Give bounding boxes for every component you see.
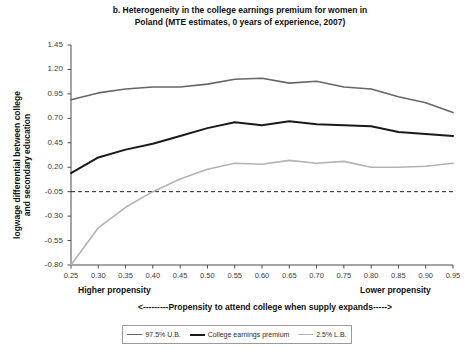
x-axis-tick-label: 0.50 [192, 271, 222, 280]
series-line-2-5-l-b [71, 160, 453, 265]
x-axis-tick-label: 0.75 [329, 271, 359, 280]
y-axis-tick-label: 1.45 [33, 40, 63, 49]
legend-label: 97.5% U.B. [145, 331, 180, 338]
legend-item: College earnings premium [190, 331, 290, 338]
x-axis-tick-label: 0.25 [56, 271, 86, 280]
legend-label: 2.5% L.B. [316, 331, 346, 338]
chart-legend: 97.5% U.B.College earnings premium2.5% L… [122, 325, 352, 344]
y-axis-tick-label: 1.20 [33, 64, 63, 73]
y-axis-tick-label: -0.80 [33, 260, 63, 269]
y-axis-tick-label: -0.30 [33, 211, 63, 220]
legend-swatch-line-icon [127, 334, 142, 335]
y-axis-tick-label: -0.55 [33, 236, 63, 245]
x-axis-tick-label: 0.45 [165, 271, 195, 280]
y-axis-tick-label: 0.70 [33, 113, 63, 122]
x-axis-tick-label: 0.85 [383, 271, 413, 280]
x-axis-tick-label: 0.30 [83, 271, 113, 280]
plot-area [0, 0, 471, 350]
legend-item: 2.5% L.B. [298, 331, 346, 338]
series-line-97-5-u-b [71, 78, 453, 112]
x-axis-label: <---------Propensity to attend college w… [70, 302, 460, 312]
y-axis-tick-label: 0.20 [33, 162, 63, 171]
x-axis-tick-label: 0.80 [356, 271, 386, 280]
x-axis-tick-label: 0.35 [111, 271, 141, 280]
legend-label: College earnings premium [208, 331, 290, 338]
series-line-college-earnings-premium [71, 121, 453, 173]
higher-propensity-note: Higher propensity [78, 285, 151, 295]
y-axis-tick-label: -0.05 [33, 187, 63, 196]
x-axis-tick-label: 0.95 [438, 271, 468, 280]
legend-swatch-line-icon [190, 334, 205, 336]
y-axis-tick-label: 0.95 [33, 89, 63, 98]
x-axis-tick-label: 0.70 [302, 271, 332, 280]
x-axis-tick-label: 0.60 [247, 271, 277, 280]
legend-swatch-line-icon [298, 334, 313, 335]
x-axis-tick-label: 0.40 [138, 271, 168, 280]
x-axis-tick-label: 0.90 [411, 271, 441, 280]
chart-figure: b. Heterogeneity in the college earnings… [0, 0, 471, 350]
x-axis-tick-label: 0.65 [274, 271, 304, 280]
legend-item: 97.5% U.B. [127, 331, 180, 338]
y-axis-tick-label: 0.45 [33, 138, 63, 147]
lower-propensity-note: Lower propensity [360, 285, 431, 295]
x-axis-tick-label: 0.55 [220, 271, 250, 280]
